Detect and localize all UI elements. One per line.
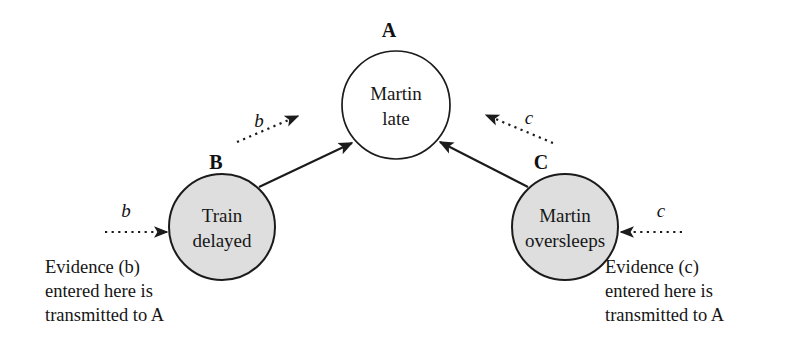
caption-left-line2: entered here is — [45, 281, 153, 301]
node-a-circle[interactable] — [342, 51, 450, 159]
caption-left-line3: transmitted to A — [45, 305, 165, 325]
node-c-tag: C — [534, 151, 548, 173]
caption-right-line3: transmitted to A — [605, 305, 725, 325]
edge-b-to-a-solid — [259, 143, 352, 187]
edge-label-c-to-a: c — [525, 107, 534, 128]
edge-b-to-a-dotted — [237, 116, 298, 142]
node-a[interactable]: Martin late — [342, 51, 450, 159]
evidence-label-b: b — [121, 200, 131, 221]
node-a-label-line2: late — [382, 108, 409, 129]
node-c-label-line1: Martin — [539, 205, 591, 226]
node-b-label-line1: Train — [202, 205, 243, 226]
node-b-circle[interactable] — [169, 174, 275, 280]
caption-right: Evidence (c) entered here is transmitted… — [605, 257, 725, 325]
node-c-circle[interactable] — [512, 174, 618, 280]
evidence-label-c: c — [657, 200, 666, 221]
node-c[interactable]: Martin oversleeps — [512, 174, 618, 280]
node-b-label-line2: delayed — [192, 230, 252, 251]
caption-left: Evidence (b) entered here is transmitted… — [45, 257, 165, 325]
diagram-canvas: b c b c Martin late A Train delayed B Ma… — [0, 0, 792, 347]
node-b[interactable]: Train delayed — [169, 174, 275, 280]
diagram-root: b c b c Martin late A Train delayed B Ma… — [0, 0, 792, 347]
node-c-label-line2: oversleeps — [525, 230, 605, 251]
caption-right-line2: entered here is — [605, 281, 713, 301]
caption-left-line1: Evidence (b) — [45, 257, 140, 278]
edge-c-to-a-dotted — [486, 115, 553, 143]
node-a-label-line1: Martin — [370, 83, 422, 104]
edge-label-b-to-a: b — [254, 110, 264, 131]
node-a-tag: A — [382, 19, 397, 41]
caption-right-line1: Evidence (c) — [605, 257, 699, 278]
node-b-tag: B — [209, 151, 222, 173]
edge-c-to-a-solid — [440, 142, 528, 187]
